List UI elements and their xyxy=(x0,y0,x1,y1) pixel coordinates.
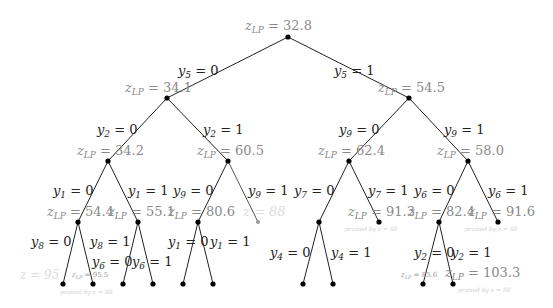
node xyxy=(436,219,441,224)
node xyxy=(465,158,470,163)
z-label-34-2: zLP = 34.2 xyxy=(76,143,144,160)
leaf-node xyxy=(150,281,155,286)
edge-label: y1 = 1 xyxy=(127,183,169,200)
leaf-node xyxy=(90,281,95,286)
node xyxy=(75,219,80,224)
z-label-54-5: zLP = 54.5 xyxy=(377,80,445,97)
leaf-node xyxy=(120,281,125,286)
edge-label: y8 = 1 xyxy=(89,234,131,251)
leaf-node xyxy=(180,281,185,286)
z-label-88: z = 88 xyxy=(242,204,286,219)
edge-label: y2 = 1 xyxy=(202,122,244,139)
edge-label: y1 = 1 xyxy=(209,234,251,251)
node xyxy=(406,95,411,100)
edge-label: y9 = 0 xyxy=(338,122,380,139)
leaf-node xyxy=(210,281,215,286)
leaf-node xyxy=(300,281,305,286)
edge-label: y7 = 0 xyxy=(293,183,335,200)
edge-label: y5 = 1 xyxy=(333,63,375,80)
z-label-85-6: zLP = 85.6 xyxy=(400,271,438,280)
leaf-node xyxy=(60,281,65,286)
edge-label: y6 = 0 xyxy=(413,183,455,200)
node xyxy=(376,219,381,224)
pruned-note: pruned by z = 88 xyxy=(458,286,511,294)
branch-and-bound-tree: zLP = 32.8 zLP = 34.1 zLP = 54.5 zLP = 3… xyxy=(0,0,553,308)
z-label-60-5: zLP = 60.5 xyxy=(196,143,264,160)
z-label-95-5: zLP = 95.5 xyxy=(71,271,108,280)
edge-label: y1 = 0 xyxy=(167,234,209,251)
leaf-node xyxy=(450,281,455,286)
node xyxy=(164,95,169,100)
edge-label: y1 = 0 xyxy=(52,183,94,200)
leaf-node xyxy=(330,281,335,286)
leaf-node xyxy=(420,281,425,286)
z-label-103-3: zLP = 103.3 xyxy=(444,265,520,282)
z-label-root: zLP = 32.8 xyxy=(244,18,312,35)
edge-label: y6 = 1 xyxy=(487,183,529,200)
node xyxy=(316,219,321,224)
node xyxy=(225,158,230,163)
z-label-58-0: zLP = 58.0 xyxy=(436,143,504,160)
pruned-note: pruned by z = 88 xyxy=(60,288,113,296)
edge-label: y2 = 0 xyxy=(96,122,138,139)
edge-label: y6 = 0 xyxy=(91,254,133,271)
node-faint xyxy=(256,220,260,224)
edge-label: y9 = 1 xyxy=(443,122,485,139)
edge-label: y2 = 1 xyxy=(450,245,492,262)
node xyxy=(195,219,200,224)
edge-label: y9 = 0 xyxy=(172,183,214,200)
z-label-91-3: zLP = 91.3 xyxy=(347,204,415,221)
node xyxy=(495,219,500,224)
edge-label: y8 = 0 xyxy=(30,234,72,251)
z-label-95: z = 95 xyxy=(19,268,59,282)
pruned-note: pruned by z = 88 xyxy=(345,225,398,233)
node-root xyxy=(285,34,290,39)
z-label-82-4: zLP = 82.4 xyxy=(407,204,475,221)
edge-label: y5 = 0 xyxy=(177,63,219,80)
edge-label: y9 = 1 xyxy=(247,183,289,200)
node xyxy=(105,158,110,163)
edge-label: y7 = 1 xyxy=(367,183,409,200)
z-label-55-1: zLP = 55.1 xyxy=(107,204,175,221)
z-label-80-6: zLP = 80.6 xyxy=(167,204,235,221)
edge-label: y4 = 1 xyxy=(330,245,372,262)
edge-label: y6 = 1 xyxy=(131,254,173,271)
node xyxy=(346,158,351,163)
z-label-91-6: zLP = 91.6 xyxy=(467,204,535,221)
z-label-62-4: zLP = 62.4 xyxy=(317,143,385,160)
z-label-54-4: zLP = 54.4 xyxy=(46,204,114,221)
pruned-note: pruned by z = 88 xyxy=(465,225,518,233)
edge-label: y4 = 0 xyxy=(269,245,311,262)
node xyxy=(135,219,140,224)
z-label-34-1: zLP = 34.1 xyxy=(124,80,192,97)
edge-label: y2 = 0 xyxy=(413,245,455,262)
